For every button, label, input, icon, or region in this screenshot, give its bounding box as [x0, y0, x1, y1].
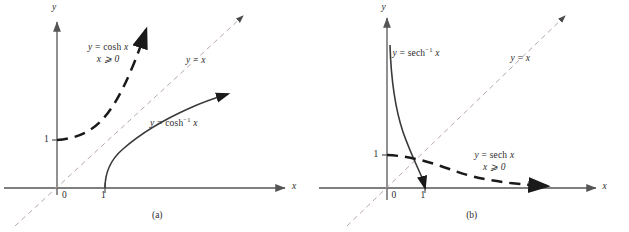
y-axis-label: y [52, 2, 56, 12]
panel-b: y x 1 0 1 y = sech−1 x y = sech x x ⩾ 0 … [315, 0, 629, 232]
x-axis-label: x [603, 181, 607, 191]
panel-b-plot [315, 0, 629, 232]
arccosh-curve-label: y = cosh−1 x [150, 118, 198, 130]
x-tick-label-1: 1 [101, 190, 106, 200]
identity-line [15, 16, 243, 226]
identity-line [347, 16, 565, 226]
x-axis-label: x [292, 181, 296, 191]
cosh-curve-label: y = cosh x x ⩾ 0 [88, 42, 128, 66]
panel-a: y x 1 0 1 y = cosh x x ⩾ 0 y = cosh−1 x … [0, 0, 315, 232]
sech-label-line2: x ⩾ 0 [483, 162, 506, 172]
arcsech-curve [390, 45, 425, 188]
panel-a-plot [0, 0, 315, 232]
sech-curve-label: y = sech x x ⩾ 0 [475, 150, 515, 174]
sech-curve [387, 155, 547, 186]
arccosh-curve [105, 94, 228, 188]
cosh-label-line2: x ⩾ 0 [97, 54, 120, 64]
x-tick-label-1: 1 [421, 190, 426, 200]
identity-line-label: y = x [511, 53, 531, 65]
panel-b-caption: (b) [315, 210, 629, 220]
y-axis-label: y [382, 2, 386, 12]
y-tick-label-1: 1 [374, 149, 379, 159]
identity-line-label: y = x [186, 55, 206, 67]
origin-label: 0 [62, 190, 67, 200]
hyperbolic-functions-figure: y x 1 0 1 y = cosh x x ⩾ 0 y = cosh−1 x … [0, 0, 629, 232]
panel-a-caption: (a) [0, 210, 315, 220]
cosh-label-line1: y = cosh x [88, 42, 128, 52]
sech-label-line1: y = sech x [475, 150, 515, 160]
origin-label: 0 [392, 190, 397, 200]
arcsech-curve-label: y = sech−1 x [393, 48, 440, 60]
y-tick-label-1: 1 [44, 134, 49, 144]
